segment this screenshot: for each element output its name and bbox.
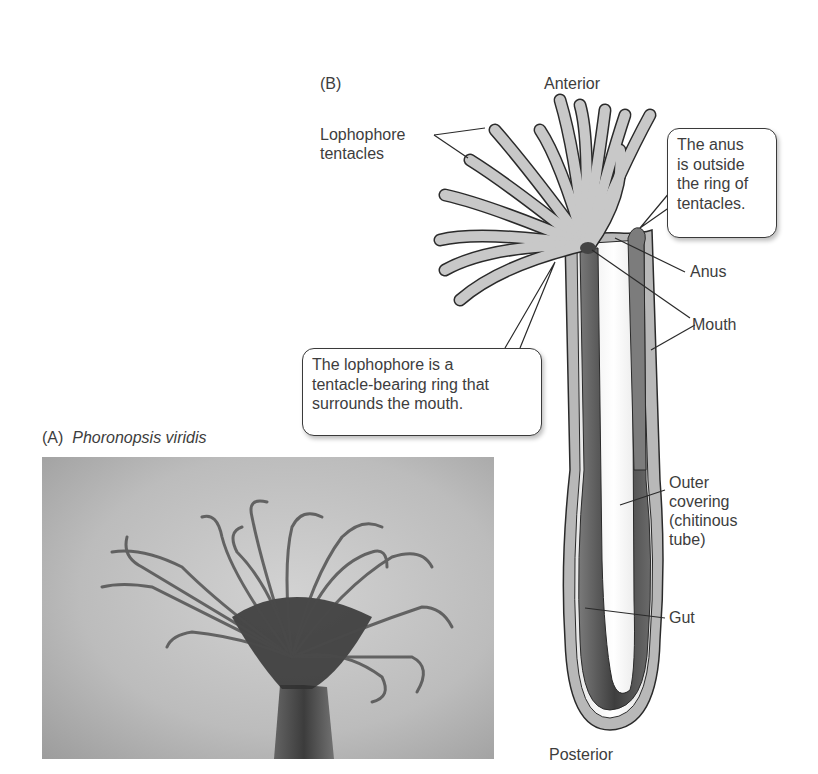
anus-label: Anus: [690, 262, 726, 281]
outer-covering-label: Outer covering (chitinous tube): [669, 473, 737, 549]
anterior-label: Anterior: [544, 74, 600, 93]
posterior-label: Posterior: [549, 745, 613, 764]
anus-callout: The anus is outside the ring of tentacle…: [667, 128, 777, 238]
gut-label: Gut: [669, 608, 695, 627]
lophophore-tentacles-label: Lophophore tentacles: [320, 125, 405, 163]
mouth-label: Mouth: [692, 315, 736, 334]
lophophore-callout: The lophophore is a tentacle-bearing rin…: [302, 348, 542, 436]
